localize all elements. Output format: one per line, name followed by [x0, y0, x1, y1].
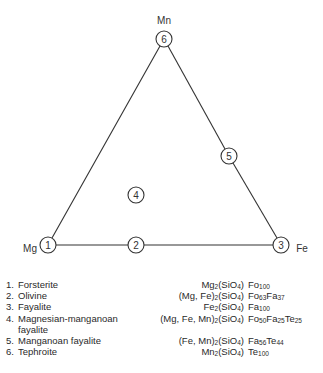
mineral-name: Magnesian-manganoan [18, 313, 118, 324]
triangle-edges [52, 46, 277, 245]
point-number: 2 [133, 240, 139, 251]
mineral-name: Forsterite [18, 279, 58, 290]
chemical-formula: (Mg, Fe)2(SiO4) [179, 290, 244, 301]
point-number: 3 [278, 240, 284, 251]
point-4: 4 [128, 187, 144, 203]
item-number: 4. [6, 313, 18, 324]
item-number: 5. [6, 335, 18, 346]
chemical-formula: Fe2(SiO4) [203, 301, 244, 312]
point-number: 1 [45, 240, 51, 251]
mineral-name: Fayalite [18, 301, 51, 312]
point-number: 5 [226, 151, 232, 162]
point-2: 2 [128, 237, 144, 253]
end-member-composition: Fa56Te44 [248, 335, 284, 346]
chemical-formula: (Fe, Mn)2(SiO4) [179, 335, 244, 346]
end-member-composition: Fo50Fa25Te25 [248, 313, 302, 324]
edge-mn-fe-lower [233, 163, 277, 238]
point-3: 3 [273, 237, 289, 253]
point-number: 6 [161, 34, 167, 45]
edge-mg-mn [52, 46, 160, 238]
point-number: 4 [133, 190, 139, 201]
end-member-composition: Fo100 [248, 279, 270, 290]
end-member-composition: Te100 [248, 346, 269, 357]
composition-points: 123456 [40, 31, 289, 253]
point-1: 1 [40, 237, 56, 253]
edge-mn-fe-upper [168, 46, 225, 149]
end-member-composition: Fa100 [248, 301, 270, 312]
vertex-label-fe: Fe [296, 243, 308, 254]
chemical-formula: Mn2(SiO4) [201, 346, 244, 357]
item-number: 3. [6, 301, 18, 312]
vertex-label-mg: Mg [23, 243, 37, 254]
legend-row: 3.Fayalite Fe2(SiO4) Fa100 [6, 301, 321, 312]
ternary-diagram: Mn Mg Fe 123456 [0, 0, 323, 275]
mineral-name-continued: fayalite [6, 324, 156, 335]
mineral-name: Manganoan fayalite [18, 335, 101, 346]
item-number: 1. [6, 279, 18, 290]
vertex-label-mn: Mn [157, 15, 171, 26]
item-number: 2. [6, 290, 18, 301]
mineral-legend: 1.Forsterite Mg2(SiO4) Fo100 2.Olivine (… [6, 279, 321, 357]
item-number: 6. [6, 346, 18, 357]
legend-row: 4.Magnesian-manganoanfayalite (Mg, Fe, M… [6, 313, 321, 335]
legend-row: 2.Olivine (Mg, Fe)2(SiO4) Fo63Fa37 [6, 290, 321, 301]
point-5: 5 [221, 148, 237, 164]
legend-row: 6.Tephroite Mn2(SiO4) Te100 [6, 346, 321, 357]
chemical-formula: Mg2(SiO4) [201, 279, 244, 290]
legend-row: 5.Manganoan fayalite (Fe, Mn)2(SiO4) Fa5… [6, 335, 321, 346]
mineral-name: Olivine [18, 290, 47, 301]
chemical-formula: (Mg, Fe, Mn)2(SiO4) [160, 313, 244, 324]
point-6: 6 [156, 31, 172, 47]
mineral-name: Tephroite [18, 346, 57, 357]
end-member-composition: Fo63Fa37 [248, 290, 285, 301]
legend-row: 1.Forsterite Mg2(SiO4) Fo100 [6, 279, 321, 290]
